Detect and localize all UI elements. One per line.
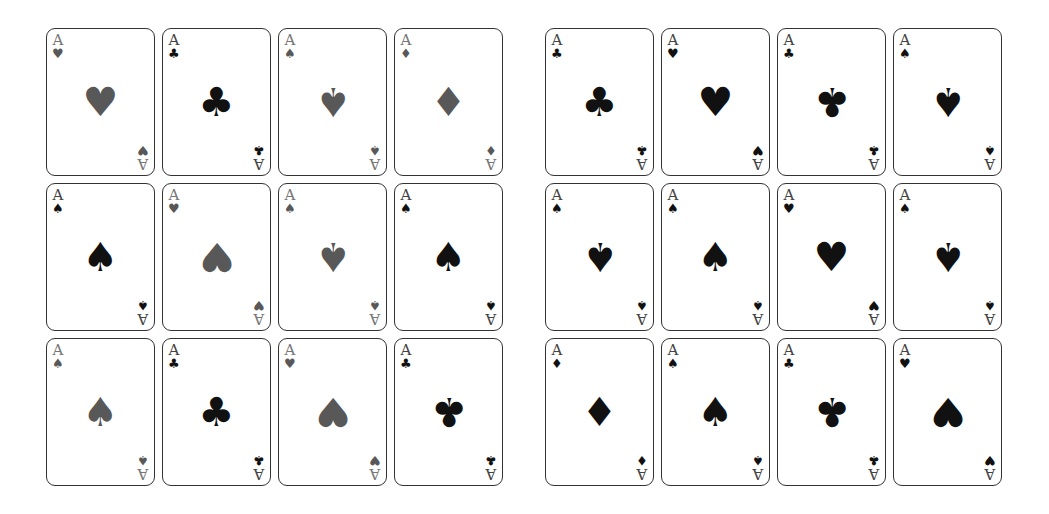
card-index-bottom-right: A ♥	[369, 454, 381, 481]
spade-icon: ♠	[984, 299, 996, 312]
club-icon: ♣	[868, 454, 880, 467]
playing-card-club: A ♣ ♣ A ♣	[545, 28, 654, 176]
diamond-icon: ♦	[485, 144, 497, 157]
card-index-top-left: A ♠	[667, 343, 679, 370]
card-index-top-left: A ♦	[551, 343, 563, 370]
heart-icon: ♥	[369, 454, 381, 467]
card-rank: A	[254, 156, 265, 171]
playing-card-club: A ♣ ♣ A ♣	[162, 28, 271, 176]
spade-icon: ♠	[369, 299, 381, 312]
card-index-top-left: A ♣	[783, 343, 795, 370]
spade-icon: ♠	[667, 202, 679, 215]
spade-icon: ♠	[400, 202, 412, 215]
club-icon: ♣	[400, 357, 412, 370]
card-index-top-left: A ♣	[783, 33, 795, 60]
spade-icon: ♠	[582, 237, 618, 277]
card-index-top-left: A ♥	[52, 33, 64, 60]
card-index-top-left: A ♥	[899, 343, 911, 370]
spade-icon: ♠	[752, 454, 764, 467]
card-index-bottom-right: A ♠	[369, 299, 381, 326]
club-icon: ♣	[199, 82, 235, 122]
club-icon: ♣	[783, 47, 795, 60]
playing-card-diamond: A ♦ ♦ A ♦	[545, 338, 654, 486]
spade-icon: ♠	[485, 299, 497, 312]
spade-icon: ♠	[83, 392, 119, 432]
card-group-right: A ♣ ♣ A ♣ A ♥ ♥ A ♥ A ♣ ♣ A ♣ A ♠	[545, 28, 1002, 486]
club-icon: ♣	[814, 82, 850, 122]
card-index-top-left: A ♥	[168, 188, 180, 215]
card-rank: A	[138, 311, 149, 326]
spade-icon: ♠	[315, 82, 351, 122]
card-index-bottom-right: A ♣	[253, 144, 265, 171]
club-icon: ♣	[783, 357, 795, 370]
playing-card-diamond: A ♦ ♦ A ♦	[394, 28, 503, 176]
club-icon: ♣	[168, 357, 180, 370]
spade-icon: ♠	[52, 357, 64, 370]
card-index-top-left: A ♠	[899, 188, 911, 215]
heart-icon: ♥	[930, 392, 966, 432]
playing-card-spade: A ♠ ♠ A ♠	[893, 183, 1002, 331]
card-index-top-left: A ♠	[52, 188, 64, 215]
heart-icon: ♥	[783, 202, 795, 215]
spade-icon: ♠	[930, 82, 966, 122]
card-rank: A	[753, 466, 764, 481]
heart-icon: ♥	[253, 299, 265, 312]
heart-icon: ♥	[199, 237, 235, 277]
card-index-top-left: A ♠	[400, 188, 412, 215]
card-index-top-left: A ♦	[400, 33, 412, 60]
card-rank: A	[138, 156, 149, 171]
diamond-icon: ♦	[551, 357, 563, 370]
playing-card-spade: A ♠ ♠ A ♠	[893, 28, 1002, 176]
heart-icon: ♥	[315, 392, 351, 432]
card-rank: A	[753, 156, 764, 171]
playing-card-spade: A ♠ ♠ A ♠	[46, 338, 155, 486]
card-index-bottom-right: A ♥	[984, 454, 996, 481]
heart-icon: ♥	[168, 202, 180, 215]
spade-icon: ♠	[984, 144, 996, 157]
heart-icon: ♥	[752, 144, 764, 157]
card-index-top-left: A ♠	[551, 188, 563, 215]
diamond-icon: ♦	[400, 47, 412, 60]
playing-card-spade: A ♠ ♠ A ♠	[46, 183, 155, 331]
card-rank: A	[138, 466, 149, 481]
card-index-bottom-right: A ♠	[137, 299, 149, 326]
card-index-bottom-right: A ♠	[984, 299, 996, 326]
spade-icon: ♠	[284, 47, 296, 60]
card-group-left: A ♥ ♥ A ♥ A ♣ ♣ A ♣ A ♠ ♠ A ♠ A ♦	[46, 28, 503, 486]
card-index-bottom-right: A ♣	[868, 454, 880, 481]
card-index-bottom-right: A ♠	[752, 454, 764, 481]
heart-icon: ♥	[83, 82, 119, 122]
heart-icon: ♥	[868, 299, 880, 312]
heart-icon: ♥	[814, 237, 850, 277]
club-icon: ♣	[253, 144, 265, 157]
card-rank: A	[637, 466, 648, 481]
card-rank: A	[637, 311, 648, 326]
card-rank: A	[869, 311, 880, 326]
card-index-top-left: A ♥	[667, 33, 679, 60]
card-index-top-left: A ♣	[168, 343, 180, 370]
card-rank: A	[985, 311, 996, 326]
card-index-bottom-right: A ♠	[485, 299, 497, 326]
card-index-bottom-right: A ♠	[752, 299, 764, 326]
card-index-bottom-right: A ♥	[868, 299, 880, 326]
heart-icon: ♥	[984, 454, 996, 467]
card-rank: A	[370, 311, 381, 326]
card-rank: A	[370, 466, 381, 481]
spade-icon: ♠	[930, 237, 966, 277]
spade-icon: ♠	[52, 202, 64, 215]
card-rank: A	[254, 311, 265, 326]
card-index-top-left: A ♠	[667, 188, 679, 215]
card-index-bottom-right: A ♠	[984, 144, 996, 171]
spade-icon: ♠	[636, 299, 648, 312]
spade-icon: ♠	[284, 202, 296, 215]
playing-card-spade: A ♠ ♠ A ♠	[394, 183, 503, 331]
card-rank: A	[486, 311, 497, 326]
card-rank: A	[985, 156, 996, 171]
club-icon: ♣	[636, 144, 648, 157]
card-index-bottom-right: A ♥	[137, 144, 149, 171]
card-index-bottom-right: A ♥	[752, 144, 764, 171]
card-rank: A	[753, 311, 764, 326]
card-index-bottom-right: A ♥	[253, 299, 265, 326]
card-index-top-left: A ♣	[400, 343, 412, 370]
card-index-bottom-right: A ♣	[485, 454, 497, 481]
